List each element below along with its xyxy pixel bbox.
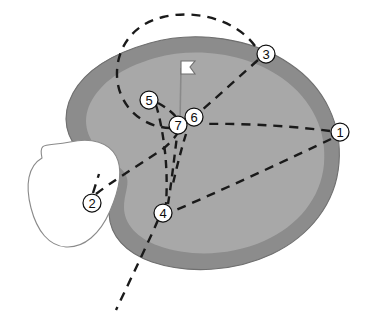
marker-3-circle [257, 45, 275, 63]
marker-1-circle [331, 123, 349, 141]
marker-7-circle [169, 116, 187, 134]
diagram-canvas: 1 2 3 4 5 6 7 [0, 0, 366, 332]
marker-4-circle [154, 204, 172, 222]
marker-1: 1 [331, 123, 349, 141]
marker-2-circle [83, 194, 101, 212]
marker-4: 4 [154, 204, 172, 222]
marker-2: 2 [83, 194, 101, 212]
marker-6-circle [185, 108, 203, 126]
bunker-hazard [28, 140, 120, 247]
marker-3: 3 [257, 45, 275, 63]
marker-6: 6 [185, 108, 203, 126]
flagstick-pole [180, 68, 181, 122]
marker-5: 5 [140, 91, 158, 109]
golf-green-diagram: 1 2 3 4 5 6 7 [0, 0, 366, 332]
marker-7: 7 [169, 116, 187, 134]
marker-5-circle [140, 91, 158, 109]
